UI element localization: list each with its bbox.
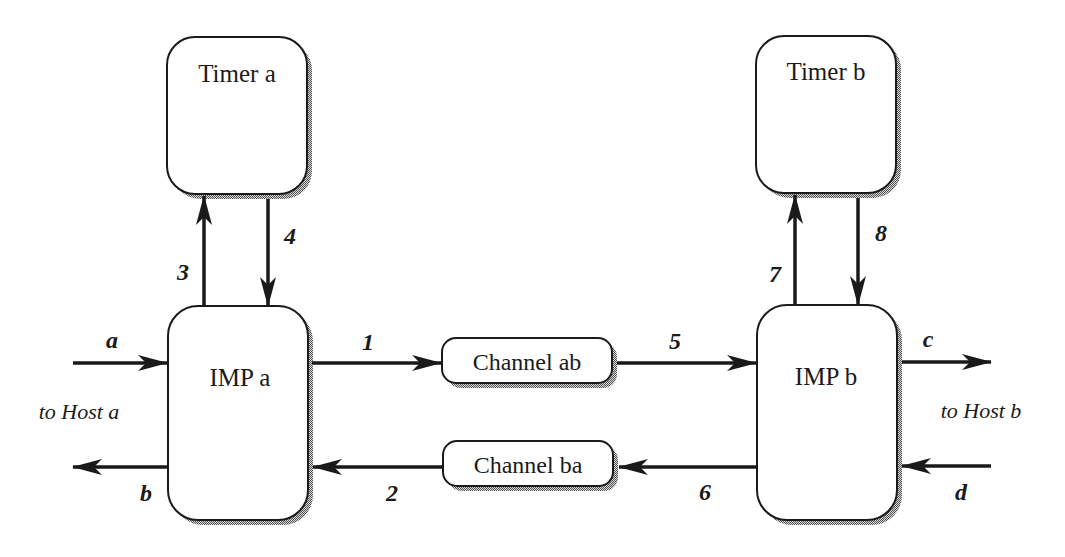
edge-6: 6 — [619, 467, 757, 505]
edge-1-label: 1 — [362, 329, 374, 355]
edge-3: 3 — [176, 196, 204, 306]
edge-5: 5 — [617, 328, 756, 363]
edge-4: 4 — [268, 199, 296, 306]
edge-a-label: a — [106, 327, 118, 353]
host-a-label: to Host a — [39, 399, 120, 424]
channel-ba-node: Channel ba — [443, 441, 618, 491]
imp-b-label: IMP b — [795, 363, 857, 390]
edge-d: d — [902, 466, 991, 505]
imp-a-label: IMP a — [210, 364, 271, 391]
edge-7: 7 — [769, 195, 795, 305]
host-b-label: to Host b — [941, 398, 1022, 423]
edge-1: 1 — [312, 329, 441, 363]
edge-c-label: c — [923, 326, 934, 352]
channel-ab-label: Channel ab — [473, 349, 582, 375]
diagram-canvas: Timer a Timer b IMP a IMP b Channel ab C… — [0, 0, 1065, 557]
imp-a-box — [168, 306, 308, 520]
edge-6-label: 6 — [699, 479, 711, 505]
edge-2: 2 — [313, 467, 443, 506]
imp-a-node: IMP a — [168, 306, 313, 525]
timer-b-node: Timer b — [756, 36, 901, 198]
channel-ab-node: Channel ab — [442, 338, 617, 388]
imp-b-node: IMP b — [757, 305, 902, 525]
edge-c: c — [902, 326, 991, 362]
edge-4-label: 4 — [283, 223, 296, 249]
timer-b-label: Timer b — [787, 58, 866, 85]
edge-3-label: 3 — [176, 259, 189, 285]
edge-5-label: 5 — [669, 328, 681, 354]
channel-ba-label: Channel ba — [474, 452, 583, 478]
edge-8: 8 — [858, 198, 887, 305]
edge-b: b — [73, 467, 168, 506]
timer-a-node: Timer a — [167, 37, 312, 199]
imp-b-box — [757, 305, 897, 520]
edge-8-label: 8 — [875, 220, 887, 246]
edge-a: a — [73, 327, 167, 363]
edge-d-label: d — [955, 479, 968, 505]
edge-7-label: 7 — [769, 261, 782, 287]
timer-a-label: Timer a — [198, 60, 276, 87]
edge-2-label: 2 — [385, 480, 398, 506]
edge-b-label: b — [140, 480, 152, 506]
